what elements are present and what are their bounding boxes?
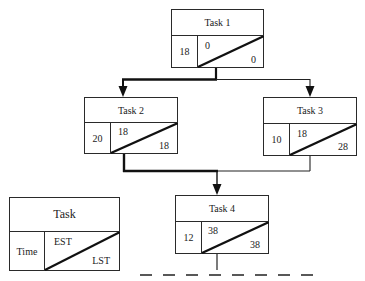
task-est: 38 [208, 225, 218, 236]
task-duration: 20 [85, 123, 111, 153]
task-duration: 18 [172, 36, 198, 67]
task-est: 0 [205, 40, 210, 51]
legend-est-label: EST [54, 236, 72, 247]
task-name: Task 4 [176, 196, 268, 222]
task-node-2: Task 2 20 18 18 [84, 97, 178, 154]
task-lst: 18 [159, 140, 169, 151]
task-node-4: Task 4 12 38 38 [175, 195, 269, 254]
task-est: 18 [297, 128, 307, 139]
task-node-3: Task 3 10 18 28 [263, 97, 357, 156]
task-node-1: Task 1 18 0 0 [171, 9, 264, 68]
task-est: 18 [118, 126, 128, 137]
legend-time-label: Time [10, 232, 45, 270]
arrowhead-task2 [119, 86, 128, 97]
task-lst: 0 [251, 54, 256, 65]
arrowhead-task3 [306, 86, 315, 97]
task-name: Task 2 [85, 98, 177, 123]
legend-task-label: Task [10, 198, 119, 232]
task-lst: 28 [338, 141, 348, 152]
arrowhead-task4 [213, 184, 222, 195]
task-duration: 10 [264, 124, 290, 155]
legend-node: Task Time EST LST [9, 197, 120, 271]
task-duration: 12 [176, 222, 202, 253]
task-lst: 38 [250, 239, 260, 250]
legend-lst-label: LST [92, 255, 110, 266]
task-name: Task 1 [172, 10, 263, 36]
task-name: Task 3 [264, 98, 356, 124]
